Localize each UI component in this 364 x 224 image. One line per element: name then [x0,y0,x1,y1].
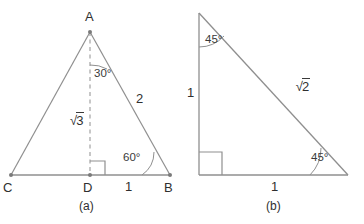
segment-ac [11,32,90,175]
caption-b: (b) [266,200,281,212]
vertex-dot-b [168,173,172,177]
caption-a: (a) [79,200,94,212]
geometry-figure: A C D B 30° 60° √3 2 1 45° 45° 1 1 √2 (a… [0,0,364,224]
angle-label-60: 60° [123,152,140,164]
vertex-label-a: A [85,10,94,23]
radicand-2: 2 [302,78,310,94]
angle-label-45-bottom: 45° [311,152,328,164]
vertex-label-c: C [3,181,12,194]
vertex-dot-d [88,173,92,177]
vertex-label-d: D [83,181,92,194]
right-angle-mark-d [90,161,105,175]
vertex-label-b: B [164,181,173,194]
right-angle-mark-b [199,152,222,175]
angle-label-45-top: 45° [205,34,222,46]
vertex-dot-c [9,173,13,177]
side-label-sqrt3: √3 [70,114,84,127]
diagram-a-shape [9,30,172,177]
angle-arc-60 [142,152,154,175]
side-label-2: 2 [136,92,143,105]
side-label-sqrt2: √2 [296,80,310,93]
figure-svg [0,0,364,224]
side-label-1-vertical: 1 [187,86,194,99]
angle-label-30: 30° [94,68,111,80]
radicand-3: 3 [76,112,84,128]
side-label-1-horizontal: 1 [271,180,278,193]
vertex-dot-a [88,30,92,34]
side-label-1-db: 1 [125,180,132,193]
